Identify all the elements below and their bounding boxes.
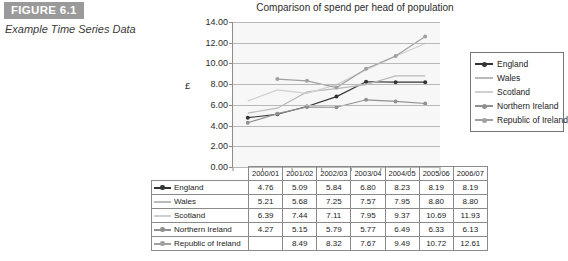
- legend-swatch-icon: [474, 58, 494, 70]
- legend-label: Northern Ireland: [494, 101, 558, 111]
- table-column-header: 2005/06: [419, 167, 453, 181]
- table-row: Northern Ireland4.275.155.795.776.496.33…: [152, 223, 488, 237]
- table-row-label-text: England: [174, 183, 203, 192]
- table-corner-cell: [152, 167, 249, 181]
- series-marker: [275, 77, 279, 81]
- gridline: [233, 22, 440, 23]
- table-cell: 8.19: [419, 181, 453, 195]
- gridline: [233, 43, 440, 44]
- table-cell: 6.49: [385, 223, 419, 237]
- table-cell: 4.27: [249, 223, 283, 237]
- table-cell: 6.33: [419, 223, 453, 237]
- table-cell: [249, 237, 283, 251]
- plot-area: [232, 22, 440, 167]
- legend-swatch-icon: [474, 114, 494, 126]
- table-cell: 7.67: [351, 237, 385, 251]
- table-cell: 9.49: [385, 237, 419, 251]
- table-row-label-text: Northern Ireland: [174, 225, 232, 234]
- table-cell: 8.80: [453, 195, 487, 209]
- legend-item[interactable]: Northern Ireland: [474, 99, 560, 113]
- gridline: [233, 126, 440, 127]
- legend-swatch-icon: [474, 72, 494, 84]
- gridline: [233, 105, 440, 106]
- series-data-table: 2000/012001/022002/032003/042004/052005/…: [151, 166, 488, 251]
- table-cell: 12.61: [453, 237, 487, 251]
- table-cell: 10.69: [419, 209, 453, 223]
- table-cell: 7.95: [351, 209, 385, 223]
- table-row-label: England: [152, 181, 249, 195]
- series-marker: [275, 112, 279, 116]
- legend-swatch-icon: [154, 240, 171, 248]
- y-axis-tick-label: 6.00: [194, 100, 228, 110]
- table-cell: 8.32: [317, 237, 351, 251]
- table-row-label: Wales: [152, 195, 249, 209]
- y-axis-tick-label: 2.00: [194, 141, 228, 151]
- legend-item[interactable]: England: [474, 57, 560, 71]
- chart-legend: EnglandWalesScotlandNorthern IrelandRepu…: [470, 52, 564, 132]
- table-row-label: Scotland: [152, 209, 249, 223]
- table-column-header: 2000/01: [249, 167, 283, 181]
- table-cell: 6.39: [249, 209, 283, 223]
- legend-swatch-icon: [154, 226, 171, 234]
- table-cell: 7.57: [351, 195, 385, 209]
- legend-label: England: [494, 59, 528, 69]
- y-axis-tickmark: [229, 63, 233, 64]
- table-column-header: 2003/04: [351, 167, 385, 181]
- table-row-label: Northern Ireland: [152, 223, 249, 237]
- legend-swatch-icon: [154, 198, 171, 206]
- plot-series-svg: [233, 22, 440, 167]
- table-cell: 5.21: [249, 195, 283, 209]
- table-row: Wales5.215.687.257.577.958.808.80: [152, 195, 488, 209]
- series-marker: [335, 95, 339, 99]
- table-cell: 6.13: [453, 223, 487, 237]
- legend-swatch-icon: [154, 212, 171, 220]
- gridline: [233, 146, 440, 147]
- table-row: England4.765.095.846.808.238.198.19: [152, 181, 488, 195]
- y-axis-tick-label: 8.00: [194, 79, 228, 89]
- table-body: England4.765.095.846.808.238.198.19Wales…: [152, 181, 488, 251]
- table-column-header: 2004/05: [385, 167, 419, 181]
- legend-item[interactable]: Republic of Ireland: [474, 113, 560, 127]
- series-marker: [335, 86, 339, 90]
- table-cell: 11.93: [453, 209, 487, 223]
- y-axis-tick-label: 14.00: [194, 17, 228, 27]
- y-axis-tickmark: [229, 43, 233, 44]
- table-row-label: Republic of Ireland: [152, 237, 249, 251]
- table-cell: 5.84: [317, 181, 351, 195]
- table-cell: 6.80: [351, 181, 385, 195]
- y-axis-tickmark: [229, 22, 233, 23]
- legend-item[interactable]: Wales: [474, 71, 560, 85]
- table-cell: 9.37: [385, 209, 419, 223]
- y-axis-label: £: [185, 80, 190, 91]
- series-line: [248, 100, 425, 123]
- y-axis-tickmark: [229, 126, 233, 127]
- table-column-header: 2001/02: [283, 167, 317, 181]
- table-cell: 5.68: [283, 195, 317, 209]
- table-column-header: 2002/03: [317, 167, 351, 181]
- legend-item[interactable]: Scotland: [474, 85, 560, 99]
- table-row: Republic of Ireland8.498.327.679.4910.72…: [152, 237, 488, 251]
- series-marker: [394, 99, 398, 103]
- series-marker: [423, 34, 427, 38]
- table-column-header: 2006/07: [453, 167, 487, 181]
- table-cell: 10.72: [419, 237, 453, 251]
- table-cell: 8.49: [283, 237, 317, 251]
- series-marker: [394, 54, 398, 58]
- series-line: [248, 43, 425, 100]
- chart-title: Comparison of spend per head of populati…: [205, 2, 505, 13]
- legend-swatch-icon: [474, 86, 494, 98]
- table-row-label-text: Republic of Ireland: [174, 239, 241, 248]
- series-line: [277, 36, 425, 87]
- table-cell: 5.15: [283, 223, 317, 237]
- y-axis-tick-label: 10.00: [194, 58, 228, 68]
- series-marker: [305, 79, 309, 83]
- table-cell: 5.79: [317, 223, 351, 237]
- table-cell: 7.11: [317, 209, 351, 223]
- table-cell: 4.76: [249, 181, 283, 195]
- y-axis-tickmark: [229, 105, 233, 106]
- table-header-row: 2000/012001/022002/032003/042004/052005/…: [152, 167, 488, 181]
- gridline: [233, 84, 440, 85]
- legend-label: Wales: [494, 73, 520, 83]
- series-marker: [364, 98, 368, 102]
- y-axis-tick-label: 4.00: [194, 121, 228, 131]
